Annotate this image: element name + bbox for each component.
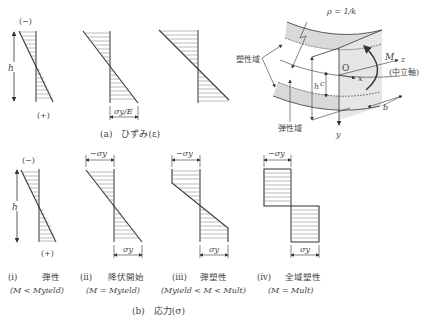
stress-diagram-fully-plastic (264, 155, 319, 258)
case-1-name: 弾性 (42, 272, 60, 282)
case-2-numeral: (ⅱ) (80, 272, 92, 282)
case-4-numeral: (ⅳ) (257, 272, 271, 282)
strain-diagram-3 (159, 30, 229, 103)
case-2-name: 降伏開始 (108, 272, 144, 282)
width-label: b (383, 103, 388, 112)
moment-label: M (384, 52, 395, 62)
stress-diagram-elastic (17, 169, 56, 242)
pos-yield-stress-label: σy (123, 245, 133, 254)
case-1-condition: (M < Myield) (10, 286, 64, 295)
strain-sign-negative: (−) (19, 17, 32, 26)
case-captions: (ⅰ) 弾性 (M < Myield) (ⅱ) 降伏開始 (M = Myield… (8, 272, 321, 295)
stress-diagram-elastoplastic (172, 155, 228, 258)
case-4-name: 全域塑性 (285, 272, 321, 282)
strain-diagram-1 (14, 31, 53, 102)
elastic-zone-label: 弾性域 (278, 123, 302, 133)
axis-y-label: y (335, 130, 341, 139)
stress-caption: (b) 応力(σ) (132, 305, 185, 316)
case-3-name: 弾塑性 (200, 272, 227, 282)
strain-caption: (a) ひずみ(ε) (100, 129, 160, 139)
plastic-zone-label: 塑性域 (236, 54, 260, 64)
neutral-axis-label: (中立軸) (389, 67, 419, 77)
case-1-numeral: (ⅰ) (8, 272, 17, 282)
stress-sign-positive: (+) (41, 249, 54, 258)
case-3-condition: (Myield < M < Mult) (161, 286, 246, 295)
core-label: c (320, 79, 325, 88)
stress-sign-negative: (−) (22, 156, 35, 165)
strain-height-label: h (8, 63, 14, 73)
strain-sign-positive: (+) (37, 111, 50, 120)
radius-label: ρ = 1/k (326, 7, 356, 16)
neg-yield-stress-label-iv: −σy (268, 149, 285, 158)
case-4-condition: (M = Mult) (268, 286, 313, 295)
pos-yield-stress-label-iv: σy (300, 245, 310, 254)
axis-x-label: x (358, 74, 363, 83)
stress-height-label: h (12, 202, 18, 212)
beam-3d-diagram (262, 22, 402, 125)
case-3-numeral: (ⅲ) (172, 272, 187, 282)
neg-yield-stress-label-iii: −σy (176, 149, 193, 158)
neg-yield-stress-label: −σy (90, 149, 107, 158)
yield-strain-label: σy/E (114, 107, 133, 116)
stress-diagram-yield-start (86, 155, 142, 258)
beam-height-label: h (314, 82, 319, 91)
axis-z-label: z (400, 55, 406, 64)
origin-label: O (342, 63, 349, 73)
figure-canvas: (−) (+) h σy/E (0, 0, 438, 326)
case-2-condition: (M = Myield) (86, 286, 140, 295)
pos-yield-stress-label-iii: σy (209, 245, 219, 254)
